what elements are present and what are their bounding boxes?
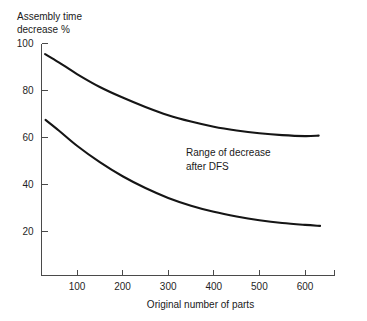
y-axis-title-line-1: Assembly time [17,10,82,23]
chart-figure: 20406080100 100200300400500600 Assembly … [0,0,367,321]
x-tick-label: 400 [205,281,222,292]
y-axis-tick-labels: 20406080100 [17,38,34,237]
y-axis-title: Assembly time decrease % [17,10,82,36]
chart-canvas: 20406080100 100200300400500600 [0,0,367,321]
axes-group: 20406080100 100200300400500600 [17,38,335,292]
x-tick-label: 300 [160,281,177,292]
y-axis-title-line-2: decrease % [17,23,82,36]
range-annotation-line-1: Range of decrease [186,146,271,160]
y-tick-label: 60 [22,132,34,143]
y-tick-label: 100 [17,38,34,49]
series-curve-upper-bound [45,54,319,136]
x-axis-ticks [77,270,335,276]
x-axis-tick-labels: 100200300400500600 [69,281,314,292]
y-tick-label: 80 [22,85,34,96]
x-axis-title-text: Original number of parts [147,299,254,310]
x-tick-label: 600 [297,281,314,292]
x-tick-label: 500 [251,281,268,292]
y-tick-label: 40 [22,179,34,190]
range-annotation-line-2: after DFS [186,160,271,174]
x-tick-label: 200 [114,281,131,292]
x-tick-label: 100 [69,281,86,292]
x-axis-title: Original number of parts [0,294,367,312]
y-axis-ticks [42,44,48,232]
range-annotation: Range of decrease after DFS [186,146,271,174]
data-series-group [45,54,320,226]
y-tick-label: 20 [22,226,34,237]
